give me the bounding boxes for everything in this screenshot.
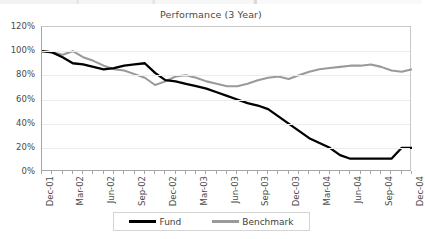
x-tick-mark bbox=[154, 171, 155, 174]
x-tick-mark bbox=[319, 171, 320, 174]
x-tick-mark bbox=[267, 171, 268, 174]
x-tick-mark bbox=[164, 171, 165, 174]
x-tick-mark bbox=[298, 171, 299, 174]
x-tick-mark bbox=[144, 171, 145, 174]
gridline bbox=[42, 124, 410, 125]
y-tick-label: 80% bbox=[0, 69, 35, 79]
y-tick-label: 0% bbox=[0, 166, 35, 176]
x-tick-mark bbox=[349, 171, 350, 174]
x-tick-label: Sep-03 bbox=[260, 176, 270, 216]
y-tick-label: 40% bbox=[0, 118, 35, 128]
x-tick-mark bbox=[103, 171, 104, 174]
x-tick-label: Mar-04 bbox=[322, 176, 332, 216]
x-tick-mark bbox=[226, 171, 227, 174]
gridline bbox=[42, 100, 410, 101]
legend-label-fund: Fund bbox=[159, 217, 181, 227]
x-tick-mark bbox=[339, 171, 340, 174]
gridline bbox=[42, 51, 410, 52]
x-tick-label: Dec-03 bbox=[291, 176, 301, 216]
x-tick-mark bbox=[257, 171, 258, 174]
x-tick-mark bbox=[41, 171, 42, 174]
plot-area bbox=[41, 26, 411, 171]
x-tick-mark bbox=[277, 171, 278, 174]
y-tick-label: 100% bbox=[0, 45, 35, 55]
fund-line bbox=[42, 51, 412, 159]
x-tick-mark bbox=[216, 171, 217, 174]
x-tick-mark bbox=[401, 171, 402, 174]
x-tick-mark bbox=[247, 171, 248, 174]
x-tick-mark bbox=[360, 171, 361, 174]
x-tick-mark bbox=[134, 171, 135, 174]
x-tick-label: Sep-04 bbox=[384, 176, 394, 216]
legend-label-benchmark: Benchmark bbox=[242, 217, 293, 227]
x-tick-mark bbox=[195, 171, 196, 174]
fund-line-swatch-icon bbox=[129, 220, 156, 223]
x-tick-label: Mar-03 bbox=[199, 176, 209, 216]
legend-item-fund: Fund bbox=[129, 217, 181, 227]
chart-title: Performance (3 Year) bbox=[0, 9, 422, 20]
gridline bbox=[42, 75, 410, 76]
x-tick-label: Dec-01 bbox=[45, 176, 55, 216]
x-tick-label: Jun-04 bbox=[353, 176, 363, 216]
x-tick-mark bbox=[72, 171, 73, 174]
legend-item-benchmark: Benchmark bbox=[212, 217, 293, 227]
y-axis-tick-labels: 0%20%40%60%80%100%120% bbox=[0, 26, 38, 171]
x-tick-mark bbox=[123, 171, 124, 174]
y-tick-label: 20% bbox=[0, 142, 35, 152]
x-tick-mark bbox=[51, 171, 52, 174]
x-tick-mark bbox=[380, 171, 381, 174]
chart-legend: Fund Benchmark bbox=[113, 212, 310, 231]
x-tick-mark bbox=[288, 171, 289, 174]
x-tick-mark bbox=[329, 171, 330, 174]
x-tick-label: Mar-02 bbox=[75, 176, 85, 216]
x-tick-mark bbox=[236, 171, 237, 174]
gridline bbox=[42, 148, 410, 149]
x-tick-label: Dec-02 bbox=[168, 176, 178, 216]
x-tick-label: Dec-04 bbox=[415, 176, 425, 216]
y-tick-label: 120% bbox=[0, 21, 35, 31]
x-tick-label: Sep-02 bbox=[137, 176, 147, 216]
x-tick-label: Jun-03 bbox=[230, 176, 240, 216]
x-tick-mark bbox=[390, 171, 391, 174]
cropped-table-edge-artifact bbox=[0, 0, 422, 4]
x-tick-mark bbox=[411, 171, 412, 174]
x-tick-mark bbox=[308, 171, 309, 174]
y-tick-label: 60% bbox=[0, 94, 35, 104]
x-tick-mark bbox=[113, 171, 114, 174]
x-tick-mark bbox=[175, 171, 176, 174]
x-tick-mark bbox=[62, 171, 63, 174]
x-tick-mark bbox=[92, 171, 93, 174]
x-tick-mark bbox=[185, 171, 186, 174]
x-tick-mark bbox=[370, 171, 371, 174]
x-tick-mark bbox=[205, 171, 206, 174]
benchmark-line-swatch-icon bbox=[212, 220, 239, 223]
x-tick-label: Jun-02 bbox=[106, 176, 116, 216]
x-tick-mark bbox=[82, 171, 83, 174]
